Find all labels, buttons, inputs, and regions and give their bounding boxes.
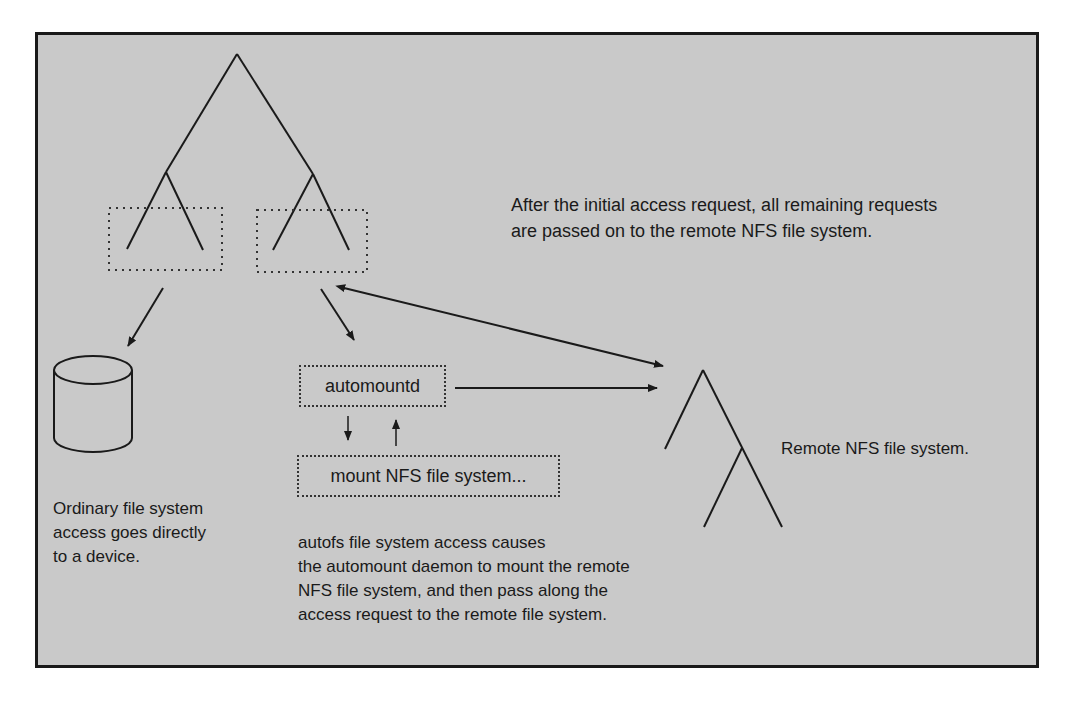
arrow-to-disk xyxy=(128,288,163,346)
caption-after-initial: After the initial access request, all re… xyxy=(511,192,937,244)
automountd-box: automountd xyxy=(299,365,446,407)
disk-icon xyxy=(54,356,132,452)
local-directory-tree xyxy=(127,54,349,250)
automountd-label: automountd xyxy=(325,376,420,397)
arrow-bidirectional-remote xyxy=(344,288,663,366)
left-subtree-dotted-box xyxy=(109,208,222,270)
arrow-to-automountd xyxy=(321,289,354,340)
caption-remote: Remote NFS file system. xyxy=(781,437,969,460)
mount-nfs-label: mount NFS file system... xyxy=(330,466,526,487)
caption-ordinary: Ordinary file system access goes directl… xyxy=(53,497,206,569)
mount-nfs-box: mount NFS file system... xyxy=(297,455,560,497)
remote-nfs-tree xyxy=(665,370,782,527)
caption-autofs: autofs file system access causes the aut… xyxy=(298,531,630,627)
right-subtree-dotted-box xyxy=(257,210,367,272)
